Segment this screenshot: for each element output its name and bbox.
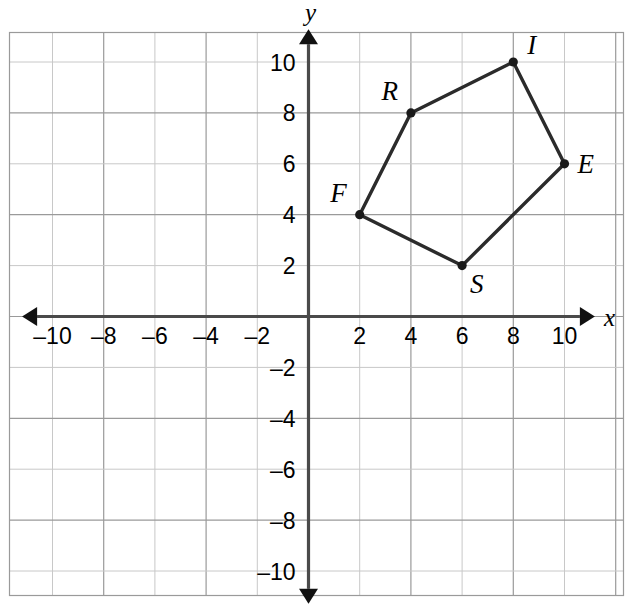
coordinate-grid-svg: –10–8–6–4–2246810–10–8–6–4–2246810 xy FR…	[0, 0, 633, 604]
y-tick-label: 10	[270, 50, 296, 76]
x-tick-label: 6	[456, 323, 469, 349]
vertex-point-r	[406, 108, 415, 117]
grid-lines	[10, 33, 624, 596]
x-tick-label: –4	[193, 323, 219, 349]
y-tick-label: –2	[270, 355, 296, 381]
y-tick-label: –8	[270, 508, 296, 534]
y-axis-label: y	[302, 0, 317, 26]
y-tick-label: –6	[270, 457, 296, 483]
axes	[22, 29, 595, 604]
vertex-label-i: I	[526, 30, 538, 60]
vertex-label-s: S	[470, 269, 484, 299]
x-axis-label: x	[603, 304, 615, 331]
y-tick-label: 2	[283, 253, 296, 279]
coordinate-plane-figure: –10–8–6–4–2246810–10–8–6–4–2246810 xy FR…	[0, 0, 633, 604]
x-axis-arrow-right	[580, 307, 595, 326]
vertex-label-r: R	[380, 76, 398, 106]
x-tick-label: –8	[91, 323, 117, 349]
x-tick-label: 2	[353, 323, 366, 349]
vertex-point-f	[355, 210, 364, 219]
y-tick-label: 4	[283, 202, 296, 228]
vertex-label-e: E	[577, 149, 595, 179]
y-tick-label: 8	[283, 100, 296, 126]
x-tick-label: –6	[142, 323, 168, 349]
x-tick-label: –2	[245, 323, 271, 349]
y-tick-label: –10	[257, 559, 295, 585]
y-axis-arrow-down	[299, 589, 318, 604]
grid-border	[10, 33, 624, 596]
vertex-point-e	[560, 159, 569, 168]
x-tick-label: –10	[33, 323, 71, 349]
y-tick-label: –4	[270, 406, 296, 432]
x-tick-label: 8	[507, 323, 520, 349]
x-tick-label: 10	[552, 323, 578, 349]
vertex-point-i	[509, 57, 518, 66]
vertex-label-f: F	[329, 178, 347, 208]
y-axis-arrow-up	[299, 29, 318, 44]
vertex-point-s	[458, 261, 467, 270]
x-tick-label: 4	[405, 323, 418, 349]
y-tick-label: 6	[283, 151, 296, 177]
